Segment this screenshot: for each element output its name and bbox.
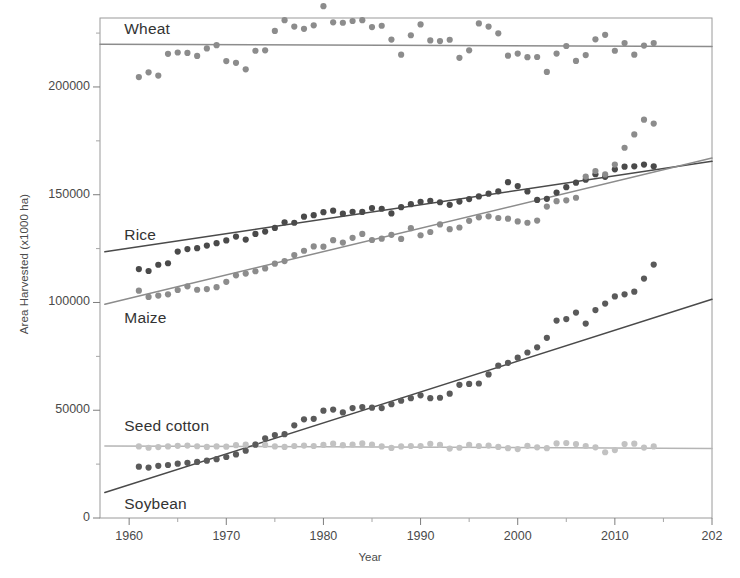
x-tick-label: 1970	[196, 529, 256, 543]
data-point	[651, 121, 657, 127]
data-point	[213, 42, 219, 48]
data-point	[272, 225, 278, 231]
data-point	[165, 51, 171, 57]
data-point	[476, 20, 482, 26]
data-point	[291, 252, 297, 258]
data-point	[359, 209, 365, 215]
data-point	[427, 198, 433, 204]
data-point	[437, 38, 443, 44]
series-label-seed-cotton: Seed cotton	[124, 417, 209, 435]
data-point	[272, 432, 278, 438]
data-point	[175, 461, 181, 467]
data-point	[194, 53, 200, 59]
data-point	[311, 416, 317, 422]
data-point	[369, 405, 375, 411]
data-point	[583, 321, 589, 327]
data-point	[213, 240, 219, 246]
data-point	[651, 163, 657, 169]
data-point	[136, 464, 142, 470]
y-tick-label: 0	[12, 510, 90, 524]
data-point	[553, 440, 559, 446]
data-point	[301, 416, 307, 422]
data-point	[359, 404, 365, 410]
data-point	[233, 442, 239, 448]
data-point	[621, 164, 627, 170]
trendline-rice	[105, 161, 712, 252]
data-point	[456, 55, 462, 61]
data-point	[534, 444, 540, 450]
data-point	[213, 456, 219, 462]
data-point	[476, 380, 482, 386]
data-point	[311, 212, 317, 218]
data-point	[379, 23, 385, 29]
x-tick-label: 1960	[99, 529, 159, 543]
data-point	[583, 52, 589, 58]
data-point	[252, 268, 258, 274]
data-point	[495, 188, 501, 194]
data-point	[398, 236, 404, 242]
data-point	[602, 171, 608, 177]
data-point	[612, 447, 618, 453]
data-point	[456, 382, 462, 388]
data-point	[573, 441, 579, 447]
data-point	[330, 441, 336, 447]
data-point	[194, 459, 200, 465]
data-point	[417, 232, 423, 238]
data-point	[204, 444, 210, 450]
data-point	[272, 28, 278, 34]
data-point	[359, 17, 365, 23]
data-point	[456, 224, 462, 230]
data-point	[505, 179, 511, 185]
data-point	[145, 294, 151, 300]
data-point	[437, 199, 443, 205]
trendline-maize	[105, 158, 712, 304]
data-point	[612, 48, 618, 54]
data-point	[136, 266, 142, 272]
data-point	[563, 197, 569, 203]
data-point	[349, 441, 355, 447]
data-point	[641, 444, 647, 450]
data-point	[612, 293, 618, 299]
data-point	[233, 451, 239, 457]
data-point	[184, 246, 190, 252]
data-point	[184, 460, 190, 466]
data-point	[621, 291, 627, 297]
data-point	[281, 258, 287, 264]
data-point	[340, 239, 346, 245]
data-point	[272, 443, 278, 449]
x-axis-title: Year	[0, 551, 740, 563]
data-point	[204, 458, 210, 464]
data-point	[427, 229, 433, 235]
plot-frame	[100, 18, 712, 518]
data-point	[427, 395, 433, 401]
data-point	[437, 442, 443, 448]
data-point	[213, 284, 219, 290]
data-point	[651, 261, 657, 267]
data-point	[621, 40, 627, 46]
data-point	[485, 213, 491, 219]
data-point	[281, 444, 287, 450]
data-point	[563, 184, 569, 190]
data-point	[602, 32, 608, 38]
data-point	[485, 371, 491, 377]
data-point	[155, 444, 161, 450]
data-point	[495, 30, 501, 36]
data-point	[281, 431, 287, 437]
data-point	[651, 443, 657, 449]
data-point	[621, 441, 627, 447]
data-point	[223, 237, 229, 243]
data-point	[505, 216, 511, 222]
data-point	[340, 442, 346, 448]
data-point	[466, 442, 472, 448]
data-point	[456, 199, 462, 205]
data-point	[534, 197, 540, 203]
data-point	[243, 448, 249, 454]
data-point	[573, 58, 579, 64]
data-point	[379, 206, 385, 212]
data-point	[320, 3, 326, 9]
data-point	[155, 72, 161, 78]
data-point	[427, 37, 433, 43]
data-point	[631, 289, 637, 295]
data-point	[485, 442, 491, 448]
data-point	[524, 220, 530, 226]
